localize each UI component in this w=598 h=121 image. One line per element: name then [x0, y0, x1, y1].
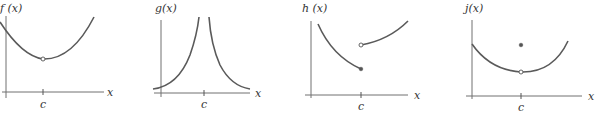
tick-label-c-h: c: [358, 100, 364, 113]
x-axis-label-f: x: [107, 86, 114, 99]
curve-h-right: [361, 21, 408, 45]
graph-j: j(x) c x: [462, 2, 595, 114]
graph-h: h (x) c x: [302, 2, 421, 113]
graph-f: f (x) c x: [0, 2, 114, 111]
y-axis-label-g: g(x): [155, 2, 177, 15]
graph-g: g(x) c x: [153, 2, 262, 111]
y-axis-label-f: f (x): [0, 2, 22, 15]
open-circle-f: [41, 57, 45, 61]
discontinuity-graphs: f (x) c x g(x) c x h (x) c x j(x): [0, 0, 598, 121]
x-axis-label-h: x: [414, 89, 421, 102]
curve-g-right: [209, 17, 250, 89]
tick-label-c-j: c: [518, 101, 524, 114]
filled-dot-h: [359, 67, 363, 71]
tick-label-c-g: c: [201, 98, 207, 111]
curve-f: [0, 17, 94, 59]
y-axis-label-h: h (x): [302, 2, 327, 15]
open-circle-j: [519, 70, 523, 74]
filled-dot-j: [519, 43, 523, 47]
open-circle-h: [359, 43, 363, 47]
curve-g-left: [153, 17, 199, 89]
x-axis-label-g: x: [255, 87, 262, 100]
x-axis-label-j: x: [588, 90, 595, 103]
y-axis-label-j: j(x): [462, 2, 483, 15]
curve-h-left: [318, 24, 361, 69]
tick-label-c-f: c: [40, 98, 46, 111]
